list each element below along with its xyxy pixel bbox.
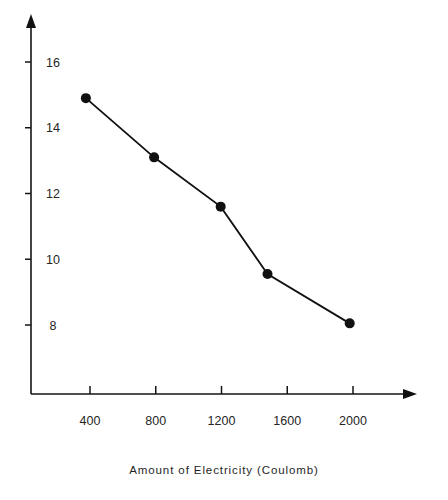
x-axis-caption: Amount of Electricity (Coulomb) — [129, 464, 319, 476]
chart-figure: 810121416 400800120016002000 Amount of E… — [0, 0, 448, 500]
x-tick-group — [90, 386, 353, 394]
data-point-marker — [345, 318, 355, 328]
x-tick-label: 2000 — [339, 414, 367, 428]
data-point-marker — [216, 202, 226, 212]
data-series-group — [81, 93, 355, 328]
y-tick-label: 8 — [50, 319, 57, 333]
x-tick-label: 400 — [80, 414, 101, 428]
x-tick-label: 1200 — [208, 414, 236, 428]
y-tick-label: 10 — [46, 253, 60, 267]
x-axis-group: 400800120016002000 — [31, 386, 417, 428]
y-tick-group — [25, 62, 31, 325]
data-point-marker — [263, 269, 273, 279]
x-tick-label: 1600 — [273, 414, 301, 428]
y-axis-arrow-icon — [26, 14, 36, 28]
series-line-1 — [86, 98, 350, 323]
y-tick-label-group: 810121416 — [46, 56, 60, 333]
data-point-marker — [81, 93, 91, 103]
x-axis-arrow-icon — [403, 389, 417, 399]
y-axis-group: 810121416 — [25, 14, 60, 394]
y-tick-label: 14 — [46, 121, 60, 135]
y-tick-label: 16 — [46, 56, 60, 70]
line-chart-plot: 810121416 400800120016002000 Amount of E… — [0, 0, 448, 500]
y-tick-label: 12 — [46, 187, 60, 201]
x-tick-label: 800 — [145, 414, 166, 428]
data-point-marker — [149, 152, 159, 162]
x-tick-label-group: 400800120016002000 — [80, 414, 367, 428]
